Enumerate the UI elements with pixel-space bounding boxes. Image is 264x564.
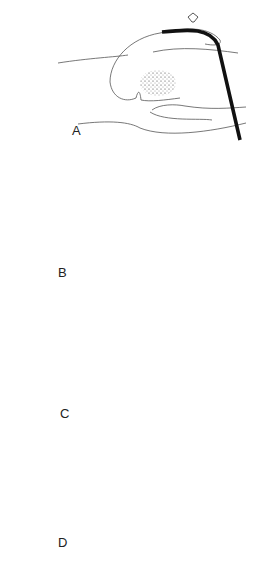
panel-label-b: B [58, 265, 67, 280]
pressure-arrow-icon [188, 13, 198, 22]
panel-label-c: C [60, 406, 69, 421]
stippled-mass [140, 70, 176, 96]
diagram-canvas [0, 0, 264, 564]
panel-label-d: D [58, 535, 67, 550]
panel-label-a: A [72, 123, 81, 138]
panel-a [58, 13, 246, 140]
